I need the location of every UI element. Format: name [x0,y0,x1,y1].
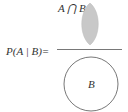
lhs-label: P(A | B)= [5,45,49,58]
set-b-label: B [88,78,95,90]
intersection-label: A ⋂ B [57,2,86,15]
conditional-probability-diagram: P(A | B)= A ⋂ B B [0,0,128,112]
